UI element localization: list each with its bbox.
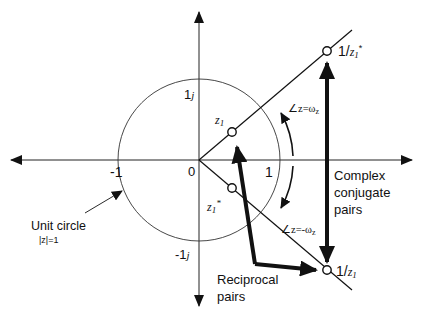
unit-circle-pointer-arrow	[85, 191, 122, 213]
unit-circle-label: Unit circle	[31, 219, 86, 233]
zero-marker-inv-z1	[323, 266, 331, 274]
zero-marker-inv-z1-conj	[323, 47, 331, 55]
zero-marker-z1	[228, 128, 236, 136]
real-pos-tick-label: 1	[265, 164, 273, 180]
angle-arc-lower	[281, 166, 293, 208]
imag-neg-tick-label: -1j	[175, 247, 190, 262]
label-z1: z1	[214, 113, 224, 128]
label-inv-z1: 1/z1	[336, 263, 357, 280]
angle-arc-upper	[281, 113, 293, 156]
origin-label: 0	[188, 164, 195, 179]
zero-marker-z1-conj	[228, 184, 236, 192]
complex-plane-diagram: 0 1 -1 1j -1j z1 z1* 1/z1* 1/z1 ∠z=ωz ∠z…	[0, 0, 424, 318]
complex-conjugate-pairs-label: Complex conjugate pairs	[334, 168, 394, 217]
imag-pos-tick-label: 1j	[184, 87, 194, 102]
unit-circle-equation: |z|=1	[39, 235, 58, 245]
label-z1-conj: z1*	[206, 198, 221, 215]
real-neg-tick-label: -1	[110, 164, 123, 180]
reciprocal-pairs-arrow	[237, 147, 316, 270]
reciprocal-pairs-label: Reciprocal pairs	[217, 272, 282, 304]
angle-label-upper: ∠z=ωz	[288, 103, 320, 116]
angle-label-lower: ∠z=-ωz	[281, 224, 316, 237]
label-inv-z1-conj: 1/z1*	[338, 43, 363, 60]
